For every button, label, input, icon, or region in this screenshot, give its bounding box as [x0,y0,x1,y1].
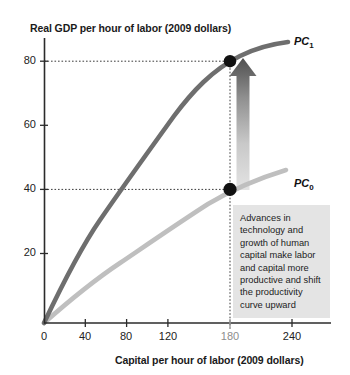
x-tick-label-80: 80 [113,330,139,342]
curve-label-pc0-sub: 0 [309,183,313,192]
x-tick-label-180: 180 [217,330,243,342]
productivity-curve-chart: Real GDP per hour of labor (2009 dollars… [0,0,350,375]
x-tick-label-120: 120 [155,330,181,342]
curve-label-pc1: PC1 [294,35,314,50]
curve-label-pc1-text: PC [294,35,309,47]
y-tick-label-40: 40 [8,182,36,194]
y-tick-label-80: 80 [8,54,36,66]
curve-label-pc0-text: PC [294,177,309,189]
guide-lines [44,61,230,330]
curve-label-pc1-sub: 1 [309,41,313,50]
callout-text: Advances in technology and growth of hum… [240,212,324,311]
point-on-pc0 [223,183,236,196]
y-tick-label-20: 20 [8,246,36,258]
callout-box: Advances in technology and growth of hum… [233,205,330,318]
x-tick-label-240: 240 [279,330,305,342]
x-axis-title: Capital per hour of labor (2009 dollars) [115,354,304,366]
shift-arrow [230,58,257,190]
x-tick-label-40: 40 [72,330,98,342]
y-tick-label-60: 60 [8,118,36,130]
curve-label-pc0: PC0 [294,177,314,192]
point-on-pc1 [224,55,236,67]
x-tick-label-0: 0 [31,330,57,342]
